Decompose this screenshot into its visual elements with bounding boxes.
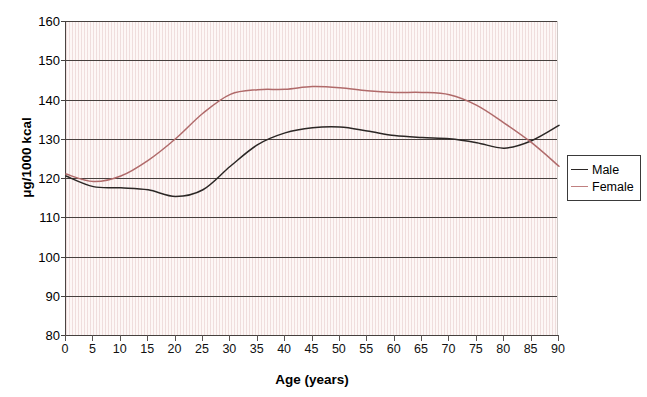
y-tick-mark bbox=[61, 100, 66, 101]
x-tick-mark bbox=[65, 335, 66, 341]
x-tick-label: 25 bbox=[187, 342, 217, 356]
x-tick-mark bbox=[421, 335, 422, 341]
x-tick-label: 5 bbox=[77, 342, 107, 356]
x-tick-label: 40 bbox=[269, 342, 299, 356]
x-tick-mark bbox=[558, 335, 559, 341]
plot-area bbox=[65, 21, 558, 335]
legend-item-female: Female bbox=[571, 178, 636, 195]
x-tick-label: 70 bbox=[433, 342, 463, 356]
x-tick-label: 60 bbox=[379, 342, 409, 356]
y-tick-mark bbox=[61, 139, 66, 140]
x-tick-mark bbox=[257, 335, 258, 341]
y-tick-label: 160 bbox=[16, 14, 60, 29]
chart-figure: μg/1000 kcal 8090100110120130140150160 0… bbox=[0, 0, 647, 397]
y-tick-label: 150 bbox=[16, 53, 60, 68]
x-tick-mark bbox=[312, 335, 313, 341]
y-tick-label: 80 bbox=[16, 328, 60, 343]
x-tick-mark bbox=[284, 335, 285, 341]
y-tick-label: 110 bbox=[16, 210, 60, 225]
x-tick-mark bbox=[366, 335, 367, 341]
x-tick-label: 90 bbox=[543, 342, 573, 356]
legend-item-male: Male bbox=[571, 161, 636, 178]
x-tick-mark bbox=[448, 335, 449, 341]
x-tick-mark bbox=[202, 335, 203, 341]
series-line-female bbox=[66, 86, 559, 181]
x-tick-label: 65 bbox=[406, 342, 436, 356]
y-tick-label: 100 bbox=[16, 249, 60, 264]
x-tick-mark bbox=[120, 335, 121, 341]
x-tick-label: 50 bbox=[324, 342, 354, 356]
x-tick-label: 45 bbox=[297, 342, 327, 356]
x-tick-label: 0 bbox=[50, 342, 80, 356]
y-tick-mark bbox=[61, 178, 66, 179]
x-tick-mark bbox=[476, 335, 477, 341]
y-tick-label: 90 bbox=[16, 288, 60, 303]
y-tick-mark bbox=[61, 60, 66, 61]
y-tick-mark bbox=[61, 21, 66, 22]
x-tick-mark bbox=[531, 335, 532, 341]
x-tick-label: 75 bbox=[461, 342, 491, 356]
chart-legend: MaleFemale bbox=[567, 155, 641, 201]
x-tick-label: 10 bbox=[105, 342, 135, 356]
x-tick-mark bbox=[175, 335, 176, 341]
x-tick-mark bbox=[394, 335, 395, 341]
x-tick-mark bbox=[92, 335, 93, 341]
x-tick-label: 80 bbox=[488, 342, 518, 356]
x-tick-mark bbox=[339, 335, 340, 341]
x-tick-mark bbox=[147, 335, 148, 341]
y-tick-label: 140 bbox=[16, 92, 60, 107]
data-series-layer bbox=[66, 21, 559, 335]
legend-swatch-female bbox=[571, 186, 588, 187]
x-tick-mark bbox=[503, 335, 504, 341]
x-tick-label: 55 bbox=[351, 342, 381, 356]
x-tick-label: 35 bbox=[242, 342, 272, 356]
y-tick-label: 120 bbox=[16, 171, 60, 186]
legend-swatch-male bbox=[571, 169, 588, 170]
series-line-male bbox=[66, 125, 559, 196]
x-tick-label: 20 bbox=[160, 342, 190, 356]
y-tick-mark bbox=[61, 257, 66, 258]
x-tick-mark bbox=[229, 335, 230, 341]
y-axis-tick-labels: 8090100110120130140150160 bbox=[8, 21, 60, 335]
legend-label: Female bbox=[592, 180, 634, 194]
y-tick-label: 130 bbox=[16, 131, 60, 146]
x-tick-label: 15 bbox=[132, 342, 162, 356]
y-tick-mark bbox=[61, 296, 66, 297]
x-axis-title: Age (years) bbox=[65, 372, 559, 387]
x-tick-label: 85 bbox=[516, 342, 546, 356]
y-tick-mark bbox=[61, 217, 66, 218]
x-tick-label: 30 bbox=[214, 342, 244, 356]
legend-label: Male bbox=[592, 163, 619, 177]
